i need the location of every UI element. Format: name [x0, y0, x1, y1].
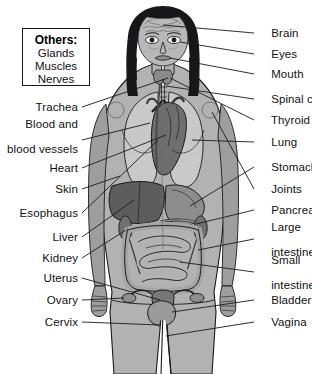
- others-item-nerves: Nerves: [23, 73, 89, 86]
- vagina: [160, 330, 166, 342]
- anatomy-figure: Others: Glands Muscles Nerves Trachea Bl…: [0, 0, 312, 374]
- mouth-region: [155, 56, 171, 61]
- ovary-left: [122, 294, 136, 303]
- others-title: Others:: [23, 33, 89, 47]
- label-vagina: Vagina: [258, 303, 307, 341]
- bladder: [148, 301, 176, 326]
- label-cervix: Cervix: [32, 303, 78, 341]
- others-item-glands: Glands: [23, 47, 89, 60]
- others-legend-box: Others: Glands Muscles Nerves: [22, 28, 90, 86]
- ovary-right: [190, 294, 204, 303]
- liver: [109, 182, 164, 224]
- others-item-muscles: Muscles: [23, 60, 89, 73]
